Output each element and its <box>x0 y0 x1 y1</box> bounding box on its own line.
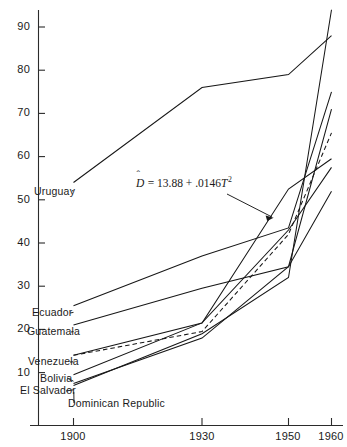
series-label-el-salvador: El Salvador <box>20 384 76 396</box>
equation-term-variable: T <box>221 177 228 189</box>
y-tick-label-80: 80 <box>4 63 30 75</box>
series-label-guatemala: Guatemala <box>27 325 80 337</box>
equation-arrow-shaft <box>227 194 272 217</box>
x-tick-label-1960: 1960 <box>311 430 347 442</box>
regression-equation-annotation: ˆD = 13.88 + .0146T2 <box>136 175 232 189</box>
equation-body: = 13.88 + .0146 <box>145 177 221 189</box>
series-line-el-salvador <box>74 191 332 383</box>
series-label-dominican-republic: Dominican Republic <box>68 397 165 409</box>
y-tick-label-90: 90 <box>4 20 30 32</box>
series-line-uruguay <box>74 36 332 183</box>
equation-lhs-symbol: ˆD <box>136 177 145 189</box>
y-tick-label-60: 60 <box>4 149 30 161</box>
x-tick-label-1930: 1930 <box>182 430 222 442</box>
x-tick-marks <box>74 418 332 426</box>
y-tick-label-70: 70 <box>4 106 30 118</box>
series-label-ecuador: Ecuador <box>32 306 73 318</box>
series-label-uruguay: Uruguay <box>34 185 75 197</box>
y-tick-label-10: 10 <box>4 366 30 378</box>
y-tick-marks <box>39 27 46 373</box>
equation-hat-accent: ˆ <box>136 169 140 180</box>
equation-arrow <box>227 194 274 221</box>
data-series-group <box>74 10 332 386</box>
x-tick-label-1900: 1900 <box>53 430 93 442</box>
y-tick-label-40: 40 <box>4 236 30 248</box>
series-label-venezuela: Venezuela <box>28 355 79 367</box>
equation-exponent: 2 <box>228 175 232 184</box>
chart-figure: 90 80 70 60 50 40 30 20 10 1900 1930 195… <box>0 0 347 447</box>
series-line-bolivia <box>74 167 332 374</box>
x-tick-label-1950: 1950 <box>268 430 308 442</box>
series-line-guatemala <box>74 109 332 325</box>
series-label-bolivia: Bolivia <box>40 372 72 384</box>
y-tick-label-50: 50 <box>4 193 30 205</box>
series-line-dominican-republic <box>74 10 332 386</box>
y-tick-label-30: 30 <box>4 279 30 291</box>
series-line-ecuador <box>74 92 332 306</box>
